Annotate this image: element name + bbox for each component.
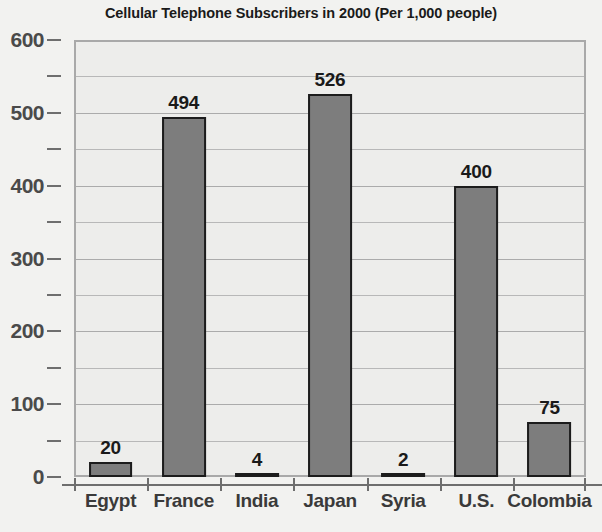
bar-slot: 2 xyxy=(367,40,440,477)
y-axis-tick-label: 200 xyxy=(10,319,44,343)
y-axis-tick-mark xyxy=(47,39,61,41)
y-axis-tick-label: 300 xyxy=(10,247,44,271)
bar-value-label: 2 xyxy=(398,449,408,471)
x-axis-labels: EgyptFranceIndiaJapanSyriaU.S.Colombia xyxy=(74,490,586,530)
y-axis-tick-label: 600 xyxy=(10,28,44,52)
bar[interactable] xyxy=(308,94,352,477)
bar-value-label: 400 xyxy=(461,161,492,183)
bar-slot: 526 xyxy=(293,40,366,477)
x-axis-category-label: France xyxy=(153,490,214,512)
y-axis-minor-tick-mark xyxy=(47,221,61,223)
bars-layer: 204944526240075 xyxy=(74,40,586,477)
y-axis-tick-mark xyxy=(47,330,61,332)
x-axis-category-label: India xyxy=(235,490,278,512)
y-axis-minor-tick-mark xyxy=(47,294,61,296)
y-axis: 0100200300400500600 xyxy=(0,0,74,532)
x-axis-category-label: U.S. xyxy=(458,490,494,512)
bar-slot: 400 xyxy=(440,40,513,477)
y-axis-tick-mark xyxy=(47,258,61,260)
x-axis-category-label: Colombia xyxy=(507,490,591,512)
bar-value-label: 4 xyxy=(252,449,262,471)
y-axis-tick-label: 400 xyxy=(10,174,44,198)
y-axis-tick-label: 500 xyxy=(10,101,44,125)
bar[interactable] xyxy=(235,473,279,477)
y-axis-tick-mark xyxy=(47,112,61,114)
y-axis-tick-label: 100 xyxy=(10,392,44,416)
bar[interactable] xyxy=(454,186,498,477)
bar[interactable] xyxy=(162,117,206,477)
y-axis-minor-tick-mark xyxy=(47,75,61,77)
bar-slot: 75 xyxy=(513,40,586,477)
y-axis-minor-tick-mark xyxy=(47,440,61,442)
y-axis-tick-label: 0 xyxy=(33,465,44,489)
y-axis-minor-tick-mark xyxy=(47,148,61,150)
bar[interactable] xyxy=(89,462,133,477)
x-axis-category-label: Japan xyxy=(303,490,356,512)
y-axis-tick-mark xyxy=(47,403,61,405)
bar-slot: 494 xyxy=(147,40,220,477)
x-axis-category-label: Syria xyxy=(381,490,426,512)
x-axis-category-label: Egypt xyxy=(85,490,136,512)
bar-slot: 4 xyxy=(220,40,293,477)
bar[interactable] xyxy=(381,473,425,477)
bar-value-label: 494 xyxy=(168,92,199,114)
bar-value-label: 20 xyxy=(100,437,121,459)
chart-title: Cellular Telephone Subscribers in 2000 (… xyxy=(0,5,602,21)
y-axis-tick-mark xyxy=(47,476,61,478)
bar-slot: 20 xyxy=(74,40,147,477)
y-axis-tick-mark xyxy=(47,185,61,187)
bar-value-label: 75 xyxy=(539,397,560,419)
bar-value-label: 526 xyxy=(315,69,346,91)
bar-chart: Cellular Telephone Subscribers in 2000 (… xyxy=(0,0,602,532)
bar[interactable] xyxy=(527,422,571,477)
y-axis-minor-tick-mark xyxy=(47,367,61,369)
